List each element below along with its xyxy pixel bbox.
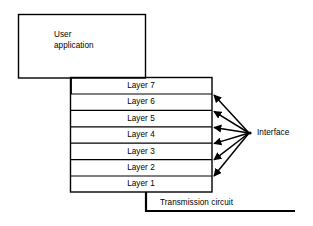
interface-arrow-group (214, 95, 249, 176)
layer-label-1: Layer 1 (70, 179, 212, 190)
layer-label-7: Layer 7 (70, 81, 212, 92)
user-application-label-line2: application (54, 41, 94, 50)
interface-arrow-2-1 (214, 133, 249, 176)
layer-label-6: Layer 6 (70, 97, 212, 108)
layer-label-2: Layer 2 (70, 163, 212, 174)
transmission-circuit-label: Transmission circuit (160, 198, 233, 209)
interface-arrow-3-2 (214, 133, 249, 160)
layer-label-3: Layer 3 (70, 147, 212, 158)
user-application-label: Userapplication (54, 30, 94, 51)
interface-convergence-point (248, 131, 251, 134)
interface-label: Interface (257, 128, 289, 139)
user-application-label-line1: User (54, 30, 72, 39)
diagram-canvas: Userapplication Layer 7 Layer 6 Layer 5 … (0, 0, 313, 226)
layer-label-4: Layer 4 (70, 130, 212, 141)
layer-label-5: Layer 5 (70, 114, 212, 125)
